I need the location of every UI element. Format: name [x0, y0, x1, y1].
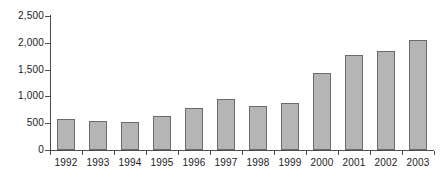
bar-1994	[121, 16, 139, 150]
bar-1995	[153, 16, 171, 150]
x-axis-tick	[114, 151, 115, 155]
bar-1993	[89, 16, 107, 150]
y-axis-label: 500	[4, 118, 44, 128]
bar-2000	[313, 16, 331, 150]
x-axis-tick	[178, 151, 179, 155]
bar-2003	[409, 16, 427, 150]
bar-rect	[57, 119, 75, 150]
bar-rect	[185, 108, 203, 150]
x-axis-tick	[434, 151, 435, 155]
bar-2001	[345, 16, 363, 150]
bar-chart: 05001,0001,5002,0002,500 199219931994199…	[0, 0, 445, 179]
x-axis-label: 2003	[398, 157, 438, 168]
bar-rect	[121, 122, 139, 150]
bar-rect	[313, 73, 331, 150]
bar-1996	[185, 16, 203, 150]
bar-1998	[249, 16, 267, 150]
y-axis-label: 0	[4, 145, 44, 155]
bar-1992	[57, 16, 75, 150]
bar-series	[50, 16, 434, 150]
bar-rect	[217, 99, 235, 150]
bar-rect	[281, 103, 299, 150]
x-axis-tick	[210, 151, 211, 155]
x-axis-tick	[50, 151, 51, 155]
bar-rect	[345, 55, 363, 150]
x-axis-tick	[402, 151, 403, 155]
x-axis-tick	[242, 151, 243, 155]
bar-1999	[281, 16, 299, 150]
y-axis-label: 1,000	[4, 91, 44, 101]
y-axis-label: 2,500	[4, 11, 44, 21]
bar-rect	[153, 116, 171, 150]
bar-1997	[217, 16, 235, 150]
bar-rect	[89, 121, 107, 150]
x-axis-tick	[146, 151, 147, 155]
x-axis-tick	[338, 151, 339, 155]
bar-rect	[409, 40, 427, 150]
x-axis-tick	[274, 151, 275, 155]
bar-2002	[377, 16, 395, 150]
y-axis-label: 1,500	[4, 65, 44, 75]
bar-rect	[377, 51, 395, 150]
x-axis-tick	[306, 151, 307, 155]
x-axis-tick	[370, 151, 371, 155]
y-axis-label: 2,000	[4, 38, 44, 48]
bar-rect	[249, 106, 267, 150]
x-axis-tick	[82, 151, 83, 155]
